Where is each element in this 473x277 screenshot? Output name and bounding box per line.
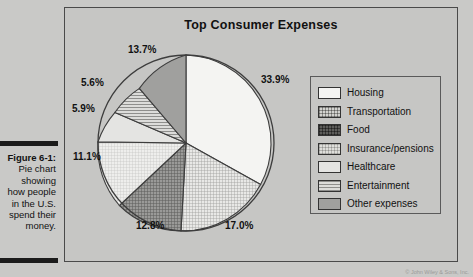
caption-line-1: Figure 6-1: — [0, 152, 58, 163]
caption-line-2: Pie chart — [0, 163, 58, 174]
legend-label-food: Food — [347, 124, 370, 136]
legend-label-insurance-pensions: Insurance/pensions — [347, 143, 434, 155]
chart-legend: Housing Transportation Food Insurance/pe… — [310, 76, 441, 214]
pie-label-insurance-pensions: 11.1% — [73, 151, 101, 162]
caption-rule-top — [0, 141, 58, 146]
pie-label-transportation: 17.0% — [225, 220, 253, 231]
legend-label-healthcare: Healthcare — [347, 161, 395, 173]
legend-label-other-expenses: Other expenses — [347, 198, 418, 210]
caption-line-5: in the U.S. — [0, 198, 58, 209]
pie-svg — [93, 50, 279, 236]
caption-rule-bottom — [0, 258, 58, 263]
legend-item-housing[interactable]: Housing — [318, 84, 434, 102]
copyright-credit: © John Wiley & Sons, Inc. — [405, 269, 469, 275]
chart-title: Top Consumer Expenses — [65, 18, 457, 32]
legend-item-other-expenses[interactable]: Other expenses — [318, 195, 434, 213]
legend-swatch-housing-icon — [318, 87, 341, 99]
pie-chart — [93, 50, 279, 236]
legend-swatch-healthcare-icon — [318, 161, 341, 173]
pie-label-entertainment: 5.6% — [81, 77, 104, 88]
legend-swatch-other-expenses-icon — [318, 198, 341, 210]
caption-line-7: money. — [0, 220, 58, 231]
pie-label-other-expenses: 13.7% — [128, 44, 156, 55]
legend-label-housing: Housing — [347, 87, 384, 99]
legend-swatch-food-icon — [318, 124, 341, 136]
pie-label-food: 12.8% — [136, 220, 164, 231]
chart-frame: Top Consumer Expenses — [64, 7, 458, 262]
figure-caption: Figure 6-1: Pie chart showing how people… — [0, 141, 58, 232]
legend-item-transportation[interactable]: Transportation — [318, 103, 434, 121]
legend-item-healthcare[interactable]: Healthcare — [318, 158, 434, 176]
caption-line-3: showing — [0, 175, 58, 186]
legend-item-food[interactable]: Food — [318, 121, 434, 139]
legend-swatch-insurance-pensions-icon — [318, 143, 341, 155]
legend-item-insurance-pensions[interactable]: Insurance/pensions — [318, 140, 434, 158]
legend-swatch-entertainment-icon — [318, 180, 341, 192]
legend-swatch-transportation-icon — [318, 106, 341, 118]
legend-label-entertainment: Entertainment — [347, 180, 409, 192]
pie-label-housing: 33.9% — [261, 74, 289, 85]
pie-label-healthcare: 5.9% — [72, 103, 95, 114]
legend-item-entertainment[interactable]: Entertainment — [318, 177, 434, 195]
caption-line-4: how people — [0, 186, 58, 197]
legend-label-transportation: Transportation — [347, 106, 411, 118]
caption-line-6: spend their — [0, 209, 58, 220]
